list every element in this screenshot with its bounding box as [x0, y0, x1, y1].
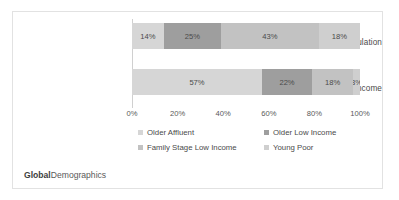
- bar-segment-older-affluent[interactable]: 57%: [132, 69, 262, 95]
- bar-segment-label: 25%: [185, 32, 200, 41]
- legend-label: Older Affluent: [147, 128, 194, 137]
- legend-swatch-icon: [138, 130, 143, 135]
- bar-segment-label: 14%: [140, 32, 155, 41]
- bar-segment-young-poor[interactable]: 18%: [319, 23, 360, 49]
- legend-swatch-icon: [138, 145, 143, 150]
- bar-segment-young-poor[interactable]: 3%: [353, 69, 360, 95]
- bar-segment-family-stage-low-income[interactable]: 18%: [312, 69, 353, 95]
- bar-segment-family-stage-low-income[interactable]: 43%: [221, 23, 319, 49]
- x-axis: 0% 20% 40% 60% 80% 100%: [132, 109, 360, 123]
- legend-item-young-poor[interactable]: Young Poor: [264, 143, 313, 152]
- table-row: 14% 25% 43% 18%: [132, 23, 360, 49]
- plot-area: Share of Total Population Share of Total…: [13, 12, 382, 188]
- bar-segment-older-low-income[interactable]: 25%: [164, 23, 221, 49]
- bar-segment-label: 57%: [189, 78, 204, 87]
- chart-frame: Share of Total Population Share of Total…: [12, 11, 383, 189]
- brand-name-bold: Global: [24, 170, 51, 180]
- legend-swatch-icon: [264, 130, 269, 135]
- legend-item-older-affluent[interactable]: Older Affluent: [138, 128, 194, 137]
- x-axis-tick-0: 0%: [127, 109, 138, 118]
- footer-brand: GlobalDemographics: [24, 170, 106, 180]
- x-axis-tick-100: 100%: [350, 109, 369, 118]
- bar-segment-older-affluent[interactable]: 14%: [132, 23, 164, 49]
- bar-segment-label: 3%: [353, 78, 360, 87]
- legend-item-family-stage-low-income[interactable]: Family Stage Low Income: [138, 143, 237, 152]
- x-axis-tick-20: 20%: [170, 109, 185, 118]
- bar-segment-label: 18%: [325, 78, 340, 87]
- bars-container: 14% 25% 43% 18% 57% 22%: [132, 19, 360, 105]
- legend-label: Family Stage Low Income: [147, 143, 237, 152]
- legend-label: Young Poor: [273, 143, 313, 152]
- legend-item-older-low-income[interactable]: Older Low Income: [264, 128, 336, 137]
- x-axis-tick-80: 80%: [307, 109, 322, 118]
- table-row: 57% 22% 18% 3%: [132, 69, 360, 95]
- legend-label: Older Low Income: [273, 128, 336, 137]
- x-axis-tick-60: 60%: [261, 109, 276, 118]
- bar-segment-label: 43%: [262, 32, 277, 41]
- bar-segment-label: 22%: [279, 78, 294, 87]
- legend-swatch-icon: [264, 145, 269, 150]
- bar-segment-older-low-income[interactable]: 22%: [262, 69, 312, 95]
- brand-name-rest: Demographics: [51, 170, 106, 180]
- chart-legend: Older Affluent Older Low Income Family S…: [138, 128, 373, 158]
- x-axis-tick-40: 40%: [216, 109, 231, 118]
- bar-segment-label: 18%: [332, 32, 347, 41]
